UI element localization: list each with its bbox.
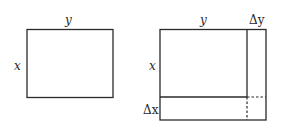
left-rectangle-figure: y x [14,13,113,98]
label-delta-x: Δx [143,103,159,117]
label-delta-y-text: Δy [249,13,265,27]
label-y-right: y [199,13,207,27]
label-delta-x-text: Δx [143,103,159,117]
label-x-left: x [14,59,21,73]
outer-rectangle [160,30,266,121]
right-rectangle-figure: y Δy x Δx [143,13,266,120]
rectangle-xy [27,30,113,98]
label-x-right: x [149,59,156,73]
area-increment-diagram: y x y Δy x Δx [0,0,281,129]
label-delta-y: Δy [249,13,265,27]
label-y-left: y [64,13,72,27]
